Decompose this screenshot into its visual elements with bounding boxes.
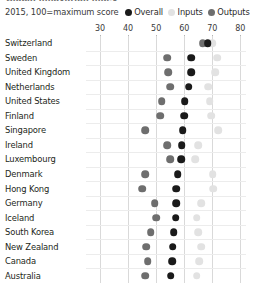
- data-point-outputs[interactable]: [166, 156, 174, 164]
- data-point-overall[interactable]: [173, 185, 181, 193]
- category-label-switzerland: Switzerland: [5, 36, 82, 51]
- data-point-inputs[interactable]: [205, 83, 213, 91]
- category-label-iceland: Iceland: [5, 210, 82, 225]
- data-row: [86, 123, 246, 138]
- data-point-outputs[interactable]: [157, 112, 165, 120]
- data-point-outputs[interactable]: [141, 170, 149, 178]
- x-tick-label-50: 50: [151, 24, 161, 33]
- data-point-overall[interactable]: [185, 83, 193, 91]
- category-label-netherlands: Netherlands: [5, 80, 82, 95]
- data-row: [86, 138, 246, 153]
- data-row: [86, 225, 246, 240]
- legend-dot-outputs-icon: [208, 9, 215, 16]
- data-point-overall[interactable]: [174, 170, 182, 178]
- category-label-south-korea: South Korea: [5, 225, 82, 240]
- x-tick-label-70: 70: [207, 24, 217, 33]
- data-point-overall[interactable]: [178, 141, 186, 149]
- plot-area: [86, 36, 246, 283]
- x-tick-label-80: 80: [235, 24, 245, 33]
- chart-title-clipped: Global innovation index: [6, 0, 118, 1]
- legend-item-outputs[interactable]: Outputs: [208, 7, 250, 17]
- legend-dot-overall-icon: [125, 9, 132, 16]
- data-point-overall[interactable]: [167, 272, 175, 280]
- data-point-outputs[interactable]: [158, 98, 166, 106]
- data-point-outputs[interactable]: [151, 199, 159, 207]
- data-point-outputs[interactable]: [147, 228, 155, 236]
- data-point-inputs[interactable]: [209, 170, 217, 178]
- data-point-inputs[interactable]: [197, 243, 205, 251]
- legend-item-overall[interactable]: Overall: [125, 7, 163, 17]
- data-row: [86, 152, 246, 167]
- category-label-new-zealand: New Zealand: [5, 239, 82, 254]
- data-point-inputs[interactable]: [194, 228, 202, 236]
- data-point-inputs[interactable]: [211, 69, 219, 77]
- data-point-inputs[interactable]: [192, 156, 200, 164]
- data-point-inputs[interactable]: [214, 127, 222, 135]
- category-label-hong-kong: Hong Kong: [5, 181, 82, 196]
- data-point-outputs[interactable]: [164, 54, 172, 62]
- data-point-outputs[interactable]: [164, 141, 172, 149]
- data-row: [86, 167, 246, 182]
- data-point-inputs[interactable]: [194, 141, 202, 149]
- data-point-outputs[interactable]: [152, 214, 160, 222]
- data-point-overall[interactable]: [204, 39, 212, 47]
- data-point-outputs[interactable]: [144, 257, 152, 265]
- data-point-inputs[interactable]: [207, 112, 215, 120]
- data-point-overall[interactable]: [172, 199, 180, 207]
- data-point-overall[interactable]: [169, 243, 177, 251]
- x-tick-label-60: 60: [179, 24, 189, 33]
- legend-item-inputs[interactable]: Inputs: [168, 7, 203, 17]
- data-point-overall[interactable]: [179, 127, 187, 135]
- category-label-germany: Germany: [5, 196, 82, 211]
- category-label-denmark: Denmark: [5, 167, 82, 182]
- data-point-outputs[interactable]: [138, 185, 146, 193]
- category-label-united-kingdom: United Kingdom: [5, 65, 82, 80]
- data-point-outputs[interactable]: [141, 272, 149, 280]
- data-row: [86, 239, 246, 254]
- data-point-overall[interactable]: [181, 98, 189, 106]
- legend-dot-inputs-icon: [168, 9, 175, 16]
- data-row: [86, 210, 246, 225]
- data-point-inputs[interactable]: [196, 257, 204, 265]
- data-point-overall[interactable]: [180, 112, 188, 120]
- data-point-overall[interactable]: [168, 257, 176, 265]
- data-row: [86, 65, 246, 80]
- data-point-inputs[interactable]: [197, 199, 205, 207]
- x-tick-label-30: 30: [95, 24, 105, 33]
- legend-label: Outputs: [217, 7, 249, 17]
- category-label-finland: Finland: [5, 109, 82, 124]
- x-axis-tick-labels: 304050607080: [86, 24, 246, 35]
- data-point-overall[interactable]: [178, 156, 186, 164]
- data-point-overall[interactable]: [187, 54, 195, 62]
- chart-subheader: 2015, 100=maximum score OverallInputsOut…: [5, 6, 253, 18]
- data-row: [86, 80, 246, 95]
- category-label-australia: Australia: [5, 268, 82, 283]
- data-row: [86, 109, 246, 124]
- category-label-canada: Canada: [5, 254, 82, 269]
- x-tick-label-40: 40: [123, 24, 133, 33]
- data-point-inputs[interactable]: [193, 214, 201, 222]
- data-point-outputs[interactable]: [166, 83, 174, 91]
- data-point-overall[interactable]: [172, 214, 180, 222]
- data-point-inputs[interactable]: [193, 272, 201, 280]
- category-label-sweden: Sweden: [5, 51, 82, 66]
- chart-legend: OverallInputsOutputs: [125, 7, 250, 17]
- category-label-luxembourg: Luxembourg: [5, 152, 82, 167]
- data-point-inputs[interactable]: [210, 185, 218, 193]
- data-point-outputs[interactable]: [143, 243, 151, 251]
- data-row: [86, 254, 246, 269]
- data-row: [86, 268, 246, 283]
- data-point-inputs[interactable]: [206, 98, 214, 106]
- data-point-overall[interactable]: [170, 228, 178, 236]
- category-label-united-states: United States: [5, 94, 82, 109]
- data-point-inputs[interactable]: [214, 54, 222, 62]
- data-point-overall[interactable]: [187, 69, 195, 77]
- chart-subtitle: 2015, 100=maximum score: [5, 7, 119, 17]
- data-point-outputs[interactable]: [141, 127, 149, 135]
- data-row: [86, 181, 246, 196]
- data-row: [86, 94, 246, 109]
- category-label-singapore: Singapore: [5, 123, 82, 138]
- data-point-outputs[interactable]: [164, 69, 172, 77]
- category-label-ireland: Ireland: [5, 138, 82, 153]
- data-row: [86, 196, 246, 211]
